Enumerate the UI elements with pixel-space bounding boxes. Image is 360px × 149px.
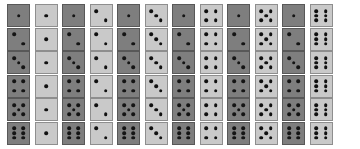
- die-dark-face-3: [282, 51, 305, 74]
- pip: [324, 9, 328, 13]
- die-face: [92, 53, 111, 72]
- pip: [177, 112, 181, 116]
- pip: [232, 103, 236, 107]
- pip: [150, 9, 154, 13]
- pip: [296, 89, 300, 93]
- pip: [44, 37, 48, 41]
- die-light-face-5: [255, 51, 278, 74]
- pip: [122, 127, 126, 131]
- pip: [260, 127, 264, 131]
- pip: [214, 80, 218, 84]
- pip: [186, 131, 190, 135]
- pip: [122, 89, 126, 93]
- pip: [205, 136, 209, 140]
- pip: [72, 14, 76, 18]
- pip: [76, 89, 80, 93]
- pip: [150, 33, 154, 37]
- die-face: [37, 124, 56, 143]
- pip: [296, 127, 300, 131]
- die-dark-face-2: [227, 28, 250, 51]
- die-light-face-6: [310, 4, 333, 27]
- die-dark-face-2: [282, 28, 305, 51]
- die-face: [64, 30, 83, 49]
- pip: [95, 103, 99, 107]
- pip: [182, 14, 186, 18]
- die-light-face-6: [310, 28, 333, 51]
- pip: [131, 42, 135, 46]
- pip: [122, 80, 126, 84]
- die-dark-face-1: [282, 4, 305, 27]
- pip: [241, 103, 245, 107]
- die-dark-face-2: [7, 28, 30, 51]
- dice-row: [0, 75, 360, 98]
- die-face: [37, 77, 56, 96]
- pip: [186, 136, 190, 140]
- die-dark-face-1: [7, 4, 30, 27]
- pip: [324, 80, 328, 84]
- pip: [159, 112, 163, 116]
- pip: [214, 65, 218, 69]
- pip: [315, 131, 319, 135]
- dice-pair: [62, 4, 113, 27]
- die-dark-face-4: [227, 75, 250, 98]
- pip: [315, 9, 319, 13]
- pip: [315, 84, 319, 88]
- die-light-face-3: [145, 98, 168, 121]
- pip: [324, 61, 328, 65]
- pip: [12, 56, 16, 60]
- die-dark-face-4: [172, 75, 195, 98]
- die-face: [119, 30, 138, 49]
- pip: [104, 65, 108, 69]
- pip: [241, 131, 245, 135]
- die-face: [284, 124, 303, 143]
- pip: [292, 14, 296, 18]
- pip: [12, 80, 16, 84]
- pip: [21, 112, 25, 116]
- dice-pair: [117, 98, 168, 121]
- dice-pair: [117, 4, 168, 27]
- pip: [205, 89, 209, 93]
- pip: [269, 89, 273, 93]
- pip: [315, 103, 319, 107]
- die-dark-face-4: [282, 75, 305, 98]
- pip: [44, 131, 48, 135]
- die-face: [229, 53, 248, 72]
- dice-pair: [282, 28, 333, 51]
- pip: [131, 112, 135, 116]
- pip: [95, 56, 99, 60]
- pip: [76, 42, 80, 46]
- die-dark-face-1: [227, 4, 250, 27]
- pip: [269, 56, 273, 60]
- pip: [269, 103, 273, 107]
- pip: [315, 127, 319, 131]
- pip: [67, 103, 71, 107]
- dice-row: [0, 28, 360, 51]
- pip: [287, 127, 291, 131]
- die-dark-face-4: [62, 75, 85, 98]
- pip: [177, 89, 181, 93]
- dice-pair: [62, 51, 113, 74]
- pip: [76, 136, 80, 140]
- die-light-face-5: [255, 98, 278, 121]
- pip: [67, 136, 71, 140]
- dice-pair: [172, 75, 223, 98]
- dice-pair: [7, 28, 58, 51]
- pip: [177, 33, 181, 37]
- pip: [292, 61, 296, 65]
- die-light-face-1: [35, 75, 58, 98]
- pip: [154, 61, 158, 65]
- die-dark-face-3: [172, 51, 195, 74]
- pip: [214, 18, 218, 22]
- die-light-face-3: [145, 4, 168, 27]
- pip: [214, 112, 218, 116]
- pip: [269, 136, 273, 140]
- dice-row: [0, 122, 360, 145]
- die-light-face-2: [90, 51, 113, 74]
- pip: [186, 65, 190, 69]
- dice-pair: [7, 98, 58, 121]
- pip: [67, 127, 71, 131]
- die-face: [229, 77, 248, 96]
- pip: [12, 112, 16, 116]
- die-light-face-6: [310, 51, 333, 74]
- die-face: [229, 124, 248, 143]
